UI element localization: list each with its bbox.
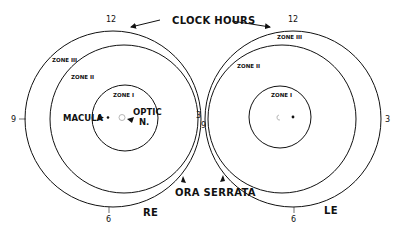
le-optic-nerve-arc: [277, 115, 280, 120]
le-clock-9: 9: [201, 121, 206, 130]
re-clock-3: 3: [196, 111, 201, 120]
ora-serrata-arrow-left-icon: [181, 176, 186, 183]
right-eye: 12 9 3 6 ZONE III ZONE II ZONE I MACULA …: [11, 15, 201, 224]
ora-serrata-arrow-right-icon: [220, 175, 225, 182]
le-clock-12: 12: [288, 15, 298, 24]
le-clock-3: 3: [385, 115, 390, 124]
le-zone2-label: ZONE II: [237, 63, 260, 69]
macula-dot: [107, 116, 110, 119]
re-zone1-label: ZONE I: [113, 92, 134, 98]
le-clock-6: 6: [291, 215, 296, 224]
re-label: RE: [143, 207, 158, 218]
re-clock-9: 9: [11, 115, 16, 124]
re-zone3-label: ZONE III: [52, 57, 77, 63]
re-clock-6: 6: [106, 215, 111, 224]
le-zone1-label: ZONE I: [271, 92, 292, 98]
optic-nerve-circle: [119, 115, 125, 121]
clock-hours-header: CLOCK HOURS: [131, 15, 270, 27]
clock-hours-arrow-left: [131, 20, 160, 27]
re-zone2-label: ZONE II: [71, 74, 94, 80]
optic-label: OPTIC: [133, 107, 162, 117]
ora-serrata-label: ORA SERRATA: [175, 187, 256, 198]
optic-n-label: N.: [139, 117, 149, 127]
le-zone3-label: ZONE III: [277, 34, 302, 40]
retina-zones-diagram: CLOCK HOURS 12 9 3 6 ZONE III ZONE II ZO…: [0, 0, 404, 234]
ora-serrata-callout: ORA SERRATA: [175, 175, 256, 198]
clock-hours-label: CLOCK HOURS: [172, 15, 256, 26]
optic-nerve-arrow-icon: [127, 117, 134, 123]
macula-label: MACULA: [63, 113, 104, 123]
le-macula-dot: [292, 116, 295, 119]
re-clock-12: 12: [106, 15, 116, 24]
le-zone3-circle: [205, 31, 381, 207]
le-zone2-circle: [208, 45, 356, 193]
le-label: LE: [324, 205, 338, 216]
